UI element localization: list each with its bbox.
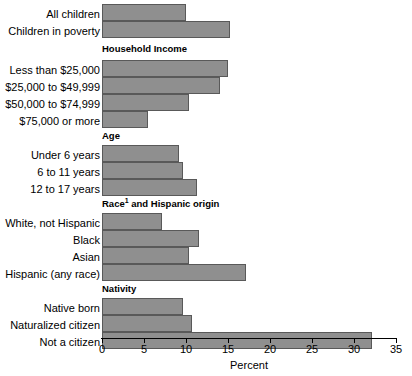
group-header-label: Household Income — [102, 43, 187, 54]
bar — [102, 60, 228, 77]
horizontal-bar-chart: All children Children in poverty Househo… — [0, 0, 412, 376]
group-header-label: Age — [102, 130, 120, 141]
bar — [102, 4, 186, 21]
bar — [102, 94, 189, 111]
group-header-nativity: Nativity — [102, 284, 136, 294]
category-label: Children in poverty — [8, 26, 100, 37]
bar — [102, 21, 230, 38]
x-axis-tick-label: 10 — [171, 344, 201, 355]
x-axis-tick-label: 30 — [339, 344, 369, 355]
bar — [102, 111, 148, 128]
x-axis-tick-label: 35 — [381, 344, 411, 355]
category-label: Less than $25,000 — [9, 65, 100, 76]
bar — [102, 315, 192, 332]
category-label: 6 to 11 years — [37, 167, 100, 178]
bar — [102, 230, 199, 247]
group-header-household-income: Household Income — [102, 44, 187, 54]
bar — [102, 298, 183, 315]
category-label: $50,000 to $74,999 — [5, 99, 100, 110]
bar — [102, 179, 197, 196]
category-label: Under 6 years — [31, 150, 100, 161]
bar — [102, 247, 189, 264]
category-label: Native born — [44, 303, 100, 314]
group-header-label: Race — [102, 198, 125, 209]
x-axis-tick-label: 0 — [87, 344, 117, 355]
bar — [102, 264, 246, 281]
category-label: $25,000 to $49,999 — [5, 82, 100, 93]
x-axis-line — [101, 338, 396, 339]
x-axis-tick-label: 15 — [213, 344, 243, 355]
group-header-age: Age — [102, 131, 120, 141]
bar — [102, 77, 220, 94]
category-label: Hispanic (any race) — [5, 269, 100, 280]
category-label: 12 to 17 years — [30, 184, 100, 195]
category-label: All children — [46, 9, 100, 20]
category-label: $75,000 or more — [19, 116, 100, 127]
category-label: Naturalized citizen — [10, 320, 100, 331]
x-axis-title: Percent — [102, 360, 396, 371]
group-header-race-hispanic-origin: Race1 and Hispanic origin — [102, 199, 219, 209]
bar — [102, 213, 162, 230]
x-axis-tick-label: 5 — [129, 344, 159, 355]
category-label: Black — [73, 235, 100, 246]
category-label: Asian — [72, 252, 100, 263]
category-label: White, not Hispanic — [5, 218, 100, 229]
x-axis-tick-label: 20 — [255, 344, 285, 355]
x-axis-tick-label: 25 — [297, 344, 327, 355]
group-header-label-suffix: and Hispanic origin — [129, 198, 220, 209]
group-header-label: Nativity — [102, 283, 136, 294]
bar — [102, 145, 179, 162]
bar — [102, 162, 183, 179]
